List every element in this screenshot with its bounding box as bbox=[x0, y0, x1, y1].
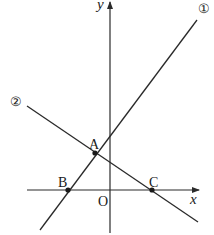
coordinate-diagram: y x O A B C ① ② bbox=[0, 0, 214, 235]
point-c-label: C bbox=[149, 175, 158, 190]
x-axis-label: x bbox=[189, 191, 197, 207]
line-2-label: ② bbox=[10, 94, 22, 109]
point-b-label: B bbox=[58, 175, 67, 190]
line-1 bbox=[40, 20, 197, 230]
line-2 bbox=[27, 106, 198, 222]
origin-label: O bbox=[98, 194, 108, 209]
point-a-label: A bbox=[89, 137, 100, 152]
line-1-label: ① bbox=[198, 1, 210, 16]
y-axis-label: y bbox=[95, 0, 104, 12]
